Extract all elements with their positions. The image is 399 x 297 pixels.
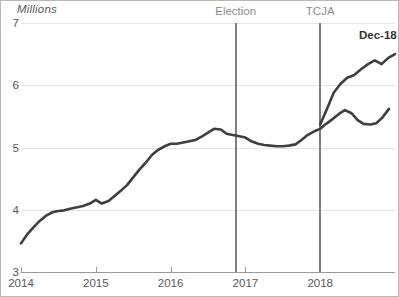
data-series-layer	[1, 1, 399, 297]
y-axis-unit-label: Millions	[17, 3, 57, 15]
line-chart: Millions 34567 20142015201620172018 Elec…	[0, 0, 399, 297]
x-tick-mark-2017	[245, 267, 246, 272]
y-tick-label-5: 5	[5, 142, 19, 154]
endpoint-label: Dec-18	[359, 29, 397, 41]
series-line-main	[21, 109, 389, 243]
gridline-y-7	[21, 23, 395, 24]
gridline-y-5	[21, 148, 395, 149]
y-tick-label-7: 7	[5, 17, 19, 29]
event-label-tcja: TCJA	[306, 5, 335, 17]
x-tick-mark-2014	[21, 267, 22, 272]
gridline-y-4	[21, 210, 395, 211]
x-tick-label-2015: 2015	[83, 277, 109, 289]
y-tick-label-6: 6	[5, 79, 19, 91]
x-axis-line	[21, 272, 395, 273]
x-tick-label-2016: 2016	[158, 277, 184, 289]
y-tick-label-4: 4	[5, 204, 19, 216]
x-tick-mark-2016	[171, 267, 172, 272]
event-line-election	[235, 23, 237, 272]
x-tick-label-2014: 2014	[8, 277, 34, 289]
x-tick-label-2018: 2018	[307, 277, 333, 289]
event-line-tcja	[319, 23, 321, 272]
gridline-y-6	[21, 85, 395, 86]
x-tick-mark-2015	[96, 267, 97, 272]
event-label-election: Election	[215, 5, 256, 17]
series-line-tail	[320, 54, 395, 124]
x-tick-label-2017: 2017	[233, 277, 259, 289]
